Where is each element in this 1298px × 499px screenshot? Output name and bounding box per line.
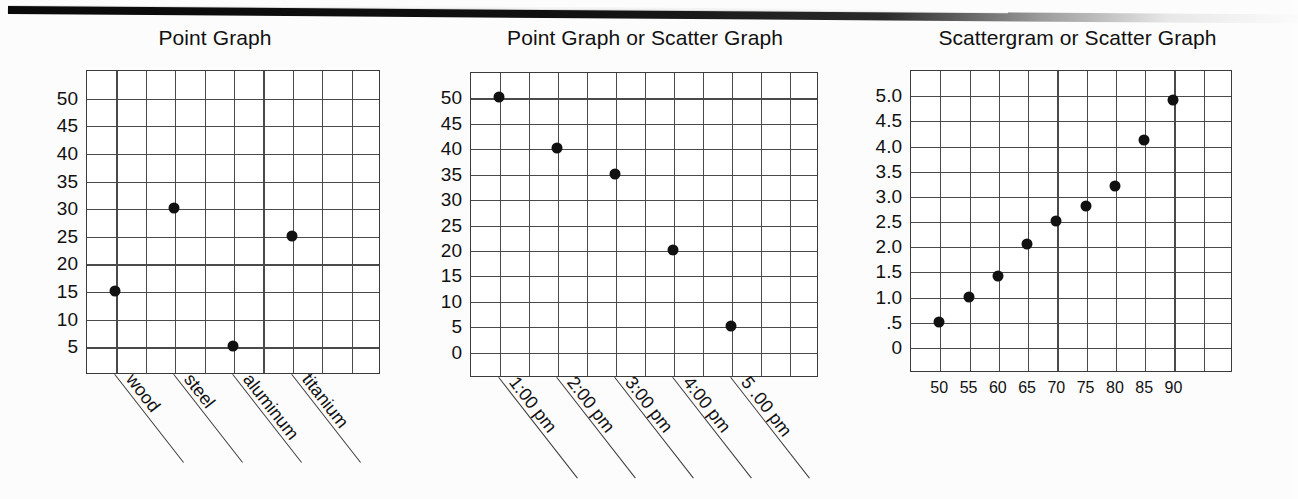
gridline-horizontal: [911, 323, 1231, 324]
data-point: [610, 168, 621, 179]
gridline-horizontal: [471, 302, 817, 303]
plot-area: [470, 72, 818, 377]
data-point: [1168, 95, 1179, 106]
x-axis-label: 5 .00 pm: [736, 373, 796, 441]
y-axis-label: 2.5: [852, 212, 902, 231]
gridline-vertical: [175, 71, 176, 373]
x-axis-label: steel: [180, 370, 220, 413]
gridline-vertical: [1174, 71, 1175, 371]
x-axis-label: 90: [1151, 380, 1195, 396]
gridline-horizontal: [471, 251, 817, 252]
x-axis-label: aluminum: [238, 370, 303, 444]
y-axis-label: 30: [28, 199, 78, 218]
gridline-horizontal: [471, 276, 817, 277]
gridline-vertical: [116, 71, 117, 373]
chart-point-graph: Point Graph5101520253035404550woodsteela…: [0, 0, 430, 499]
gridline-vertical: [970, 71, 971, 371]
gridline-vertical: [500, 73, 501, 376]
y-axis-label: 35: [412, 165, 462, 184]
gridline-horizontal: [911, 121, 1231, 122]
gridline-horizontal: [87, 237, 379, 238]
y-axis-label: 4.5: [852, 111, 902, 130]
chart-title: Scattergram or Scatter Graph: [860, 26, 1295, 50]
data-point: [552, 143, 563, 154]
gridline-vertical: [529, 73, 530, 376]
gridline-horizontal: [911, 222, 1231, 223]
y-axis-label: .5: [852, 313, 902, 332]
gridline-horizontal: [911, 197, 1231, 198]
gridline-vertical: [645, 73, 646, 376]
x-axis-label: 2:00 pm: [562, 373, 619, 437]
data-point: [934, 316, 945, 327]
gridline-vertical: [790, 73, 791, 376]
data-point: [228, 341, 239, 352]
gridline-vertical: [1087, 71, 1088, 371]
gridline-vertical: [322, 71, 323, 373]
plot-area: [910, 70, 1232, 372]
y-axis-label: 2.0: [852, 237, 902, 256]
x-axis-label: 3:00 pm: [620, 373, 677, 437]
gridline-vertical: [263, 71, 264, 373]
y-axis-label: 1.0: [852, 288, 902, 307]
y-axis-label: 0: [412, 343, 462, 362]
y-axis-label: 3.0: [852, 187, 902, 206]
data-point: [1022, 238, 1033, 249]
y-axis-label: 4.0: [852, 137, 902, 156]
gridline-vertical: [1116, 71, 1117, 371]
gridline-horizontal: [471, 353, 817, 354]
gridline-vertical: [616, 73, 617, 376]
chart-title: Point Graph or Scatter Graph: [430, 26, 860, 50]
gridline-horizontal: [471, 175, 817, 176]
gridline-vertical: [703, 73, 704, 376]
gridline-horizontal: [87, 264, 379, 265]
gridline-vertical: [146, 71, 147, 373]
gridline-vertical: [1028, 71, 1029, 371]
y-axis-label: 1.5: [852, 262, 902, 281]
data-point: [286, 230, 297, 241]
y-axis-label: 0: [852, 338, 902, 357]
gridline-horizontal: [87, 99, 379, 100]
data-point: [110, 286, 121, 297]
gridline-horizontal: [87, 154, 379, 155]
gridline-horizontal: [911, 147, 1231, 148]
y-axis-label: 10: [412, 292, 462, 311]
chart-scattergram-or-scatter-graph: Scattergram or Scatter Graph0.51.01.52.0…: [860, 0, 1295, 499]
gridline-horizontal: [471, 98, 817, 99]
data-point: [668, 244, 679, 255]
gridline-horizontal: [911, 272, 1231, 273]
gridline-horizontal: [87, 209, 379, 210]
x-axis-label: titanium: [297, 370, 352, 433]
gridline-vertical: [205, 71, 206, 373]
gridline-vertical: [234, 71, 235, 373]
data-point: [1080, 200, 1091, 211]
y-axis-label: 15: [412, 266, 462, 285]
data-point: [992, 271, 1003, 282]
gridline-horizontal: [471, 226, 817, 227]
gridline-horizontal: [87, 182, 379, 183]
data-point: [963, 291, 974, 302]
y-axis-label: 50: [28, 89, 78, 108]
data-point: [1109, 180, 1120, 191]
x-axis-label: 4:00 pm: [678, 373, 735, 437]
gridline-horizontal: [87, 292, 379, 293]
y-axis-label: 10: [28, 310, 78, 329]
gridline-horizontal: [911, 247, 1231, 248]
y-axis-label: 40: [412, 139, 462, 158]
y-axis-label: 30: [412, 190, 462, 209]
gridline-horizontal: [87, 320, 379, 321]
y-axis-label: 5: [28, 337, 78, 356]
y-axis-label: 3.5: [852, 162, 902, 181]
data-point: [1139, 135, 1150, 146]
y-axis-label: 25: [412, 216, 462, 235]
data-point: [1051, 216, 1062, 227]
y-axis-label: 40: [28, 144, 78, 163]
y-axis-label: 15: [28, 282, 78, 301]
y-axis-label: 5: [412, 317, 462, 336]
y-axis-label: 25: [28, 227, 78, 246]
gridline-horizontal: [471, 149, 817, 150]
y-axis-label: 45: [412, 114, 462, 133]
gridline-vertical: [293, 71, 294, 373]
gridline-horizontal: [87, 126, 379, 127]
